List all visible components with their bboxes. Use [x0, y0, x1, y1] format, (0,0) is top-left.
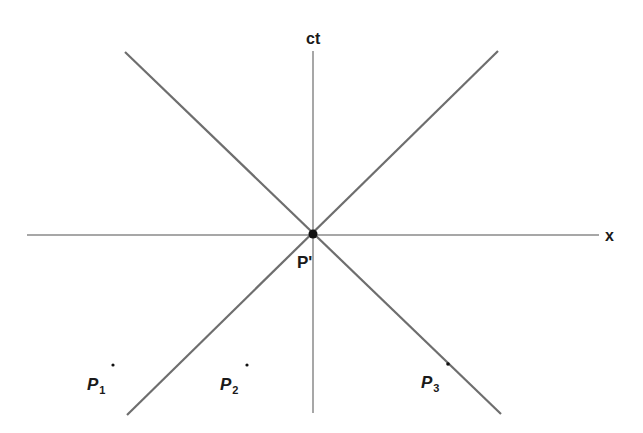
event-p3-marker [446, 362, 450, 366]
p1-subscript: 1 [99, 384, 105, 396]
x-axis-label: x [605, 228, 614, 244]
event-p-prime-marker [309, 230, 318, 239]
event-p2-marker [245, 363, 248, 366]
event-p1-marker [111, 363, 114, 366]
spacetime-diagram [0, 0, 643, 433]
p3-subscript: 3 [433, 382, 439, 394]
p2-subscript: 2 [232, 384, 238, 396]
p1-name: P [87, 375, 98, 394]
ct-axis-label: ct [306, 31, 320, 47]
p1-label: P1 [87, 376, 105, 396]
p-prime-label: P' [297, 254, 312, 271]
p3-label: P3 [421, 374, 439, 394]
p2-label: P2 [220, 376, 238, 396]
p2-name: P [220, 375, 231, 394]
p3-name: P [421, 373, 432, 392]
